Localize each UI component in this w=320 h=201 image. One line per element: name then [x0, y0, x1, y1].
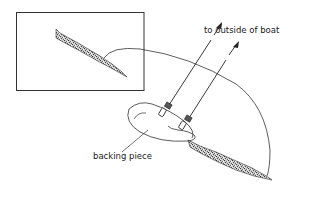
hull-section-upper	[56, 29, 127, 77]
fitting-1	[158, 22, 222, 117]
label-outside-of-boat: to outside of boat	[204, 25, 279, 35]
label-backing-piece: backing piece	[93, 151, 152, 161]
fitting-2	[178, 41, 239, 130]
backing-leader	[122, 130, 148, 152]
arrow-head-2	[233, 41, 239, 48]
hull-section-lower	[188, 140, 272, 180]
diagram-border-rect	[17, 13, 145, 91]
backing-washer-inner	[129, 103, 193, 138]
washer-lip	[134, 113, 146, 119]
